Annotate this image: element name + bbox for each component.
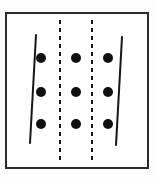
dot-r2-c2 — [71, 87, 81, 97]
diagram-svg — [0, 0, 158, 183]
dot-r1-c1 — [36, 53, 46, 63]
dot-r3-c1 — [36, 119, 46, 129]
dot-r1-c2 — [71, 53, 81, 63]
dot-r1-c3 — [103, 53, 113, 63]
dot-r2-c1 — [36, 87, 46, 97]
dot-r3-c2 — [71, 119, 81, 129]
dot-r3-c3 — [103, 119, 113, 129]
dot-r2-c3 — [103, 87, 113, 97]
figure-canvas: Grid of nine dots with two slanted solid… — [0, 0, 158, 183]
